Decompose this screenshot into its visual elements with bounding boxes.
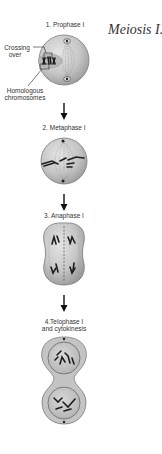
metaphase-cell [41,138,87,184]
meiosis-diagram [0,0,162,454]
arrow-down-icon [61,295,68,312]
arrow-down-icon [61,194,68,211]
arrow-down-icon [61,103,68,120]
anaphase-cell [44,223,85,285]
prophase-cell [38,35,89,85]
telophase-cell [42,337,87,424]
